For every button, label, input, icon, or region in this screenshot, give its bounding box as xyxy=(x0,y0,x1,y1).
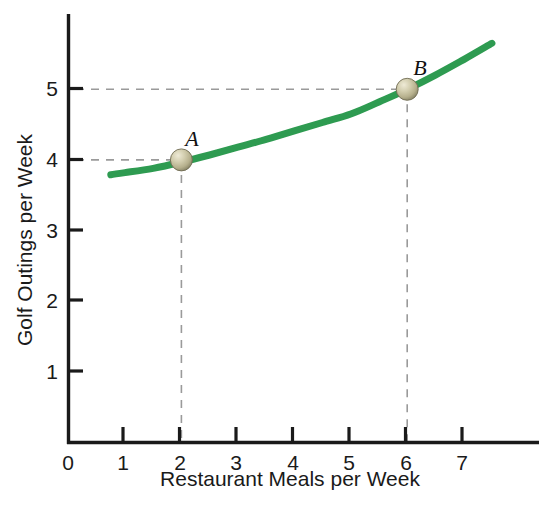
y-tick-label-1: 1 xyxy=(46,361,58,382)
y-axis-ticks xyxy=(69,89,83,372)
y-tick-label-2: 2 xyxy=(46,290,58,311)
data-point-a-label: A xyxy=(185,128,198,150)
x-tick-label-7: 7 xyxy=(456,452,468,473)
data-point-a-marker[interactable] xyxy=(170,149,192,171)
x-axis-title: Restaurant Meals per Week xyxy=(160,468,420,489)
x-tick-label-1: 1 xyxy=(117,452,129,473)
x-axis-ticks xyxy=(123,427,462,441)
x-tick-label-0: 0 xyxy=(62,452,74,473)
indifference-curve xyxy=(111,43,492,174)
y-tick-label-4: 4 xyxy=(46,149,58,170)
guide-lines xyxy=(76,89,407,443)
chart-figure: 0 1 2 3 4 5 6 7 1 2 3 4 5 A B Restaurant… xyxy=(0,0,539,505)
axes xyxy=(67,14,539,444)
data-point-b-marker[interactable] xyxy=(396,78,418,100)
y-tick-label-3: 3 xyxy=(46,220,58,241)
data-point-b-label: B xyxy=(413,57,426,79)
y-tick-label-5: 5 xyxy=(46,78,58,99)
chart-canvas xyxy=(0,0,539,505)
y-axis-title: Golf Outings per Week xyxy=(14,134,35,346)
